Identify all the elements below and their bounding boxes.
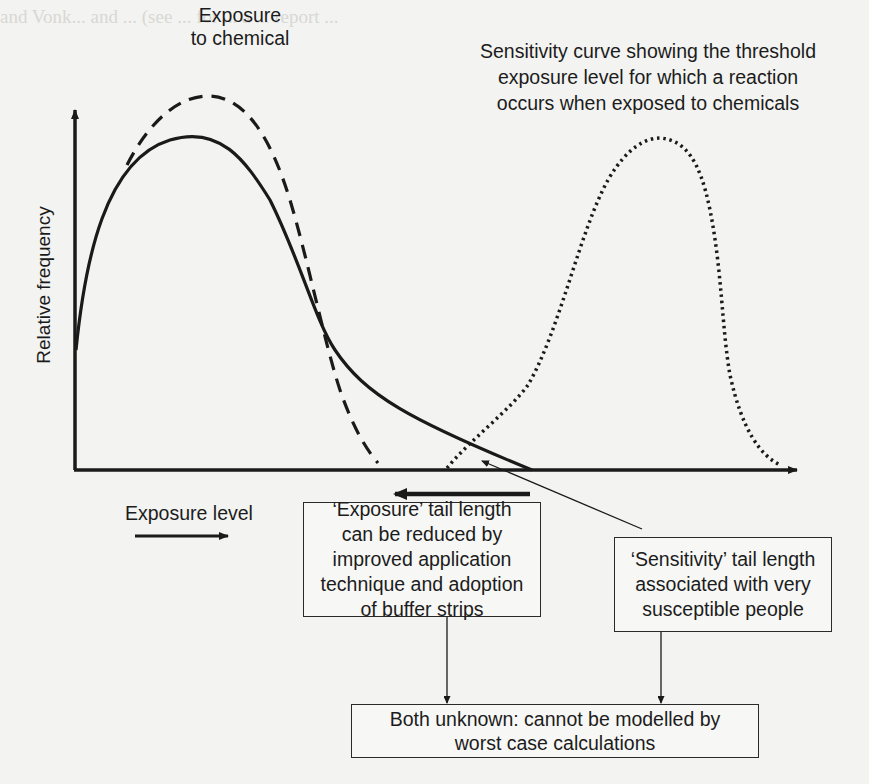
- exposure-tail-box: ‘Exposure’ tail length can be reduced by…: [303, 502, 541, 617]
- sensitivity-curve-label: Sensitivity curve showing the threshold …: [438, 38, 858, 116]
- dotted-sensitivity-curve: [447, 138, 780, 468]
- y-axis-label: Relative frequency: [32, 185, 56, 385]
- dashed-exposure-curve: [127, 96, 378, 463]
- exposure-curve-label: Exposure to chemical: [180, 4, 300, 50]
- x-axis-label: Exposure level: [125, 502, 285, 525]
- sensitivity-tail-box: ‘Sensitivity’ tail length associated wit…: [614, 537, 832, 632]
- solid-exposure-curve: [76, 136, 532, 470]
- conclusion-box: Both unknown: cannot be modelled by wors…: [351, 704, 759, 758]
- diagram-canvas: [0, 0, 869, 784]
